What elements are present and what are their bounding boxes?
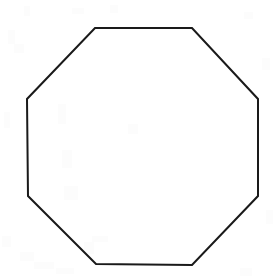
octagon-shape [27, 28, 258, 265]
drawing-canvas: octagon A single unfilled regular octago… [0, 0, 277, 280]
octagon-svg [0, 0, 277, 280]
